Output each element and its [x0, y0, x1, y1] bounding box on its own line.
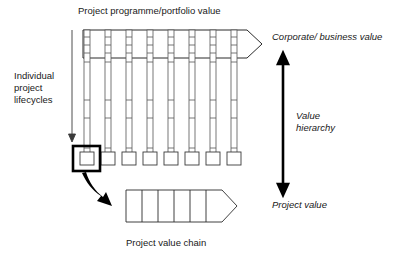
lifecycle-end-box — [122, 152, 136, 165]
lifecycle-column — [231, 30, 237, 163]
lifecycle-column — [126, 30, 132, 163]
lifecycle-column — [210, 30, 216, 163]
lifecycle-end-box — [185, 152, 199, 165]
down-arrow-icon — [69, 30, 76, 142]
vertical-double-arrow-icon — [278, 53, 288, 195]
lifecycle-end-box — [143, 152, 157, 165]
diagram-canvas — [0, 0, 401, 263]
curved-arrow-icon — [82, 172, 112, 206]
lifecycle-end-box — [101, 152, 115, 165]
lifecycle-end-box — [80, 152, 94, 165]
project-value-chain-shape — [126, 190, 237, 222]
lifecycle-end-boxes-group — [80, 152, 241, 165]
lifecycle-end-box — [206, 152, 220, 165]
lifecycle-column — [84, 30, 90, 163]
lifecycle-column — [147, 30, 153, 163]
lifecycle-columns-group — [84, 30, 237, 163]
lifecycle-column — [105, 30, 111, 163]
lifecycle-end-box — [164, 152, 178, 165]
lifecycle-column — [168, 30, 174, 163]
lifecycle-end-box — [227, 152, 241, 165]
project-value-hierarchy-diagram: Project programme/portfolio value Indivi… — [0, 0, 401, 263]
lifecycle-column — [189, 30, 195, 163]
